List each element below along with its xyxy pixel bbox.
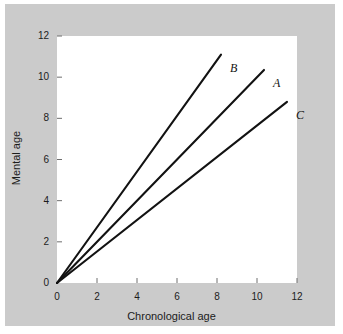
data-line-b (57, 55, 221, 283)
x-tick-label: 2 (94, 292, 100, 302)
x-tick-label: 10 (251, 292, 262, 302)
series-label-a: A (273, 77, 280, 89)
x-tick-label: 6 (174, 292, 180, 302)
x-tick-label: 12 (291, 292, 302, 302)
y-tick-label: 12 (9, 31, 49, 41)
chart-figure: 024681012 024681012 BAC Mental age Chron… (0, 0, 343, 334)
data-line-c (57, 102, 287, 283)
series-label-c: C (296, 109, 304, 121)
y-axis-title: Mental age (10, 108, 22, 208)
y-tick-label: 10 (9, 72, 49, 82)
y-tick-label: 2 (9, 237, 49, 247)
x-axis-title: Chronological age (0, 310, 343, 322)
data-line-a (57, 70, 264, 283)
x-tick-label: 4 (134, 292, 140, 302)
y-tick-label: 0 (9, 278, 49, 288)
plot-svg (0, 0, 343, 334)
data-lines (57, 55, 287, 283)
series-label-b: B (230, 62, 237, 74)
x-tick-label: 8 (214, 292, 220, 302)
x-tick-label: 0 (54, 292, 60, 302)
